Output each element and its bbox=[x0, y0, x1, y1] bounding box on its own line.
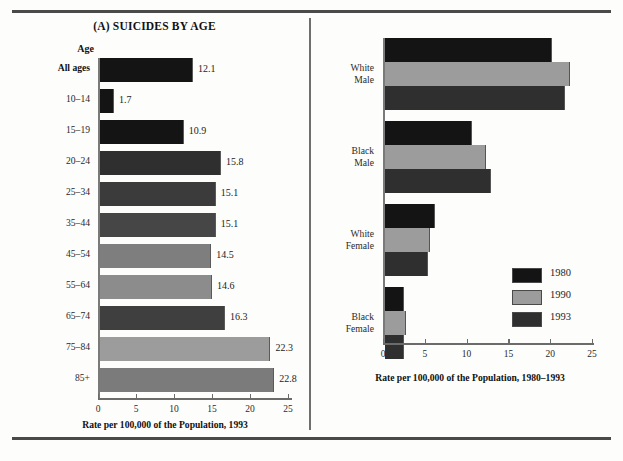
panel-a-tick-label: 10 bbox=[169, 404, 179, 414]
panel-a-tick-label: 0 bbox=[96, 404, 101, 414]
panel-a-bar bbox=[100, 58, 193, 82]
panel-a-tick-label: 25 bbox=[283, 404, 293, 414]
panel-a-bar-row: All ages12.1 bbox=[98, 58, 288, 82]
panel-a-bar-row: 10–141.7 bbox=[98, 89, 288, 113]
panel-b-tick bbox=[508, 339, 509, 345]
panel-a-value-label: 10.9 bbox=[189, 125, 207, 136]
panel-a-tick bbox=[174, 394, 175, 400]
legend-item: 1993 bbox=[512, 310, 608, 332]
panel-b-bar bbox=[385, 169, 491, 193]
panel-a-category-label: 65–74 bbox=[12, 310, 90, 321]
figure-page: (A) SUICIDES BY AGE Age All ages12.110–1… bbox=[0, 0, 623, 461]
panel-a-bar-row: 15–1910.9 bbox=[98, 120, 288, 144]
panel-a-category-label: 20–24 bbox=[12, 155, 90, 166]
legend-item: 1990 bbox=[512, 288, 608, 310]
panel-b-bar bbox=[385, 121, 472, 145]
panel-b-bar-group: BlackMale bbox=[383, 121, 592, 193]
panel-a-value-label: 16.3 bbox=[230, 311, 248, 322]
panel-b-bar bbox=[385, 228, 430, 252]
panel-b-tick-label: 20 bbox=[545, 349, 555, 359]
panel-a-x-axis-label: Rate per 100,000 of the Population, 1993 bbox=[40, 419, 290, 430]
panel-b-category-label: WhiteFemale bbox=[310, 228, 374, 251]
panel-b-bar-group: WhiteMale bbox=[383, 38, 592, 110]
panel-a-category-label: 35–44 bbox=[12, 217, 90, 228]
panel-a-bar bbox=[100, 275, 212, 299]
panel-b-tick-label: 10 bbox=[462, 349, 472, 359]
panel-b-tick bbox=[383, 339, 384, 345]
panel-a-category-label: 45–54 bbox=[12, 248, 90, 259]
panel-a-bar bbox=[100, 337, 270, 361]
panel-a-bar-row: 85+22.8 bbox=[98, 368, 288, 392]
legend-label: 1993 bbox=[550, 311, 571, 322]
legend-swatch bbox=[512, 290, 542, 305]
panel-a-value-label: 14.6 bbox=[217, 280, 235, 291]
panel-b-category-label: BlackMale bbox=[310, 145, 374, 168]
panel-a-category-label: 75–84 bbox=[12, 341, 90, 352]
panel-a-tick bbox=[250, 394, 251, 400]
panel-b-tick-label: 0 bbox=[381, 349, 386, 359]
panel-a-bar-row: 65–7416.3 bbox=[98, 306, 288, 330]
panel-b-bar bbox=[385, 38, 552, 62]
panel-b-bar bbox=[385, 311, 406, 335]
panel-b-tick bbox=[425, 339, 426, 345]
panel-b-bar bbox=[385, 86, 565, 110]
legend-label: 1980 bbox=[550, 267, 571, 278]
panel-a-bar-row: 25–3415.1 bbox=[98, 182, 288, 206]
panel-a-axis-heading: Age bbox=[18, 43, 94, 54]
panel-a-value-label: 15.1 bbox=[221, 218, 239, 229]
panel-a-bar-row: 75–8422.3 bbox=[98, 337, 288, 361]
panel-b-category-label: BlackFemale bbox=[310, 311, 374, 334]
panel-a-tick bbox=[136, 394, 137, 400]
panel-b-tick-label: 15 bbox=[504, 349, 514, 359]
panel-a-axis-line bbox=[98, 398, 292, 400]
panel-a-bar bbox=[100, 213, 216, 237]
panel-b-bar bbox=[385, 287, 404, 311]
panel-a-tick-label: 15 bbox=[207, 404, 217, 414]
panel-a-plot-area: All ages12.110–141.715–1910.920–2415.825… bbox=[98, 58, 292, 398]
panel-a-bar-row: 45–5414.5 bbox=[98, 244, 288, 268]
panel-a-bar bbox=[100, 182, 216, 206]
panel-b-bar bbox=[385, 62, 570, 86]
panel-b-bar bbox=[385, 252, 428, 276]
panel-a-bar bbox=[100, 151, 221, 175]
panel-b-tick bbox=[592, 339, 593, 345]
panel-a-category-label: 85+ bbox=[12, 372, 90, 383]
legend-label: 1990 bbox=[550, 289, 571, 300]
panel-b-x-axis-label: Rate per 100,000 of the Population, 1980… bbox=[330, 372, 610, 383]
panel-b-category-label: WhiteMale bbox=[310, 62, 374, 85]
panel-a-title: (A) SUICIDES BY AGE bbox=[0, 20, 309, 32]
legend-swatch bbox=[512, 268, 542, 283]
panel-a-value-label: 15.1 bbox=[221, 187, 239, 198]
panel-a-tick-label: 5 bbox=[134, 404, 139, 414]
panel-b-tick bbox=[467, 339, 468, 345]
panel-a-bar-row: 55–6414.6 bbox=[98, 275, 288, 299]
panel-a-category-label: 55–64 bbox=[12, 279, 90, 290]
panel-a-tick-label: 20 bbox=[245, 404, 255, 414]
panel-b-suicides-by-sex-and-race: (B) SUICIDES BY SEX AND RACE WhiteMaleBl… bbox=[309, 0, 623, 461]
panel-a-value-label: 1.7 bbox=[119, 94, 132, 105]
panel-a-bar bbox=[100, 306, 225, 330]
panel-a-bar bbox=[100, 368, 274, 392]
panel-a-value-label: 22.8 bbox=[279, 373, 297, 384]
panel-a-value-label: 14.5 bbox=[216, 249, 234, 260]
panel-a-tick bbox=[288, 394, 289, 400]
panel-a-value-label: 15.8 bbox=[226, 156, 244, 167]
panel-a-bar bbox=[100, 89, 114, 113]
panel-a-bar bbox=[100, 120, 184, 144]
legend-swatch bbox=[512, 312, 542, 327]
panel-a-category-label: 15–19 bbox=[12, 124, 90, 135]
panel-a-category-label: 10–14 bbox=[12, 93, 90, 104]
panel-a-tick bbox=[98, 394, 99, 400]
panel-a-bar-row: 35–4415.1 bbox=[98, 213, 288, 237]
panel-a-value-label: 12.1 bbox=[198, 63, 216, 74]
panel-b-tick bbox=[550, 339, 551, 345]
panel-a-category-label: 25–34 bbox=[12, 186, 90, 197]
panel-b-legend: 198019901993 bbox=[512, 266, 608, 332]
legend-item: 1980 bbox=[512, 266, 608, 288]
panel-b-bar bbox=[385, 204, 435, 228]
panel-a-value-label: 22.3 bbox=[275, 342, 293, 353]
panel-b-tick-label: 5 bbox=[422, 349, 427, 359]
panel-a-category-label: All ages bbox=[12, 62, 90, 73]
panel-a-bar-row: 20–2415.8 bbox=[98, 151, 288, 175]
panel-a-bar bbox=[100, 244, 211, 268]
